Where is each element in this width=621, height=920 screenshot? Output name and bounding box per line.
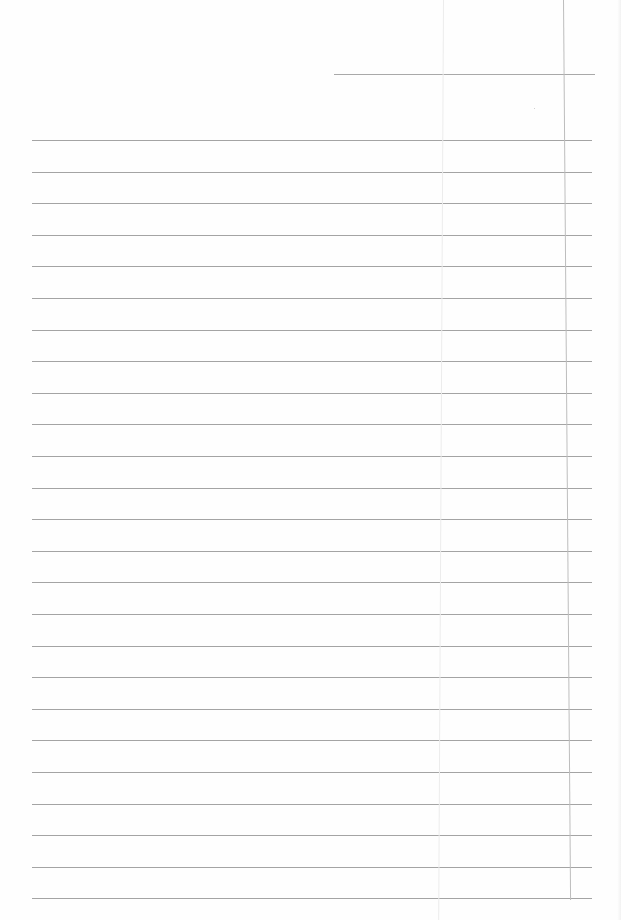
paper-speck [534, 108, 535, 109]
ruled-line [32, 646, 592, 647]
ruled-line [32, 266, 592, 267]
fold-crease [438, 0, 444, 920]
ruled-line [32, 898, 592, 899]
ruled-line [32, 519, 592, 520]
ruled-line [32, 424, 592, 425]
ruled-line [32, 361, 592, 362]
ruled-line [32, 330, 592, 331]
lined-paper-page [0, 0, 621, 920]
ruled-line [32, 456, 592, 457]
ruled-line [32, 835, 592, 836]
ruled-line [32, 709, 592, 710]
page-edge [617, 0, 621, 920]
ruled-line [32, 804, 592, 805]
ruled-line [32, 203, 592, 204]
ruled-line [32, 172, 592, 173]
ruled-line [32, 488, 592, 489]
ruled-line [32, 140, 592, 141]
ruled-line [32, 867, 592, 868]
ruled-line [32, 551, 592, 552]
ruled-line [32, 393, 592, 394]
ruled-line [32, 298, 592, 299]
right-margin-line [563, 0, 571, 900]
ruled-line [32, 582, 592, 583]
header-rule [334, 74, 595, 75]
ruled-line [32, 614, 592, 615]
ruled-line [32, 235, 592, 236]
ruled-line [32, 677, 592, 678]
ruled-line [32, 772, 592, 773]
ruled-line [32, 740, 592, 741]
